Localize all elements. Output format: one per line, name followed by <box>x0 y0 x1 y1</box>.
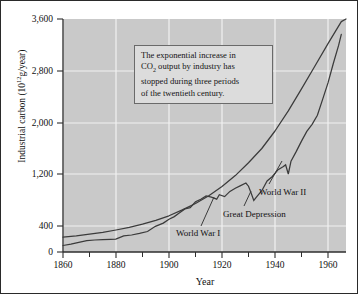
xtick-label-1940: 1940 <box>255 260 295 270</box>
callout-line-1: The exponential increase in <box>141 50 267 61</box>
x-axis-ticks <box>63 252 328 258</box>
y-axis-title-exponent: 12 <box>15 76 22 83</box>
callout-co2-prefix: CO <box>141 61 153 71</box>
annotation-label-world-war-i: World War I <box>176 228 220 238</box>
annotation-label-world-war-ii: World War II <box>259 187 306 197</box>
ytick-label-2000: 2,000 <box>7 118 53 128</box>
callout-line-4: of the twentieth century. <box>141 88 267 99</box>
callout-line-2: CO2 output by industry has <box>141 61 267 76</box>
figure-chart: 3,600 2,800 2,000 1,200 400 0 1860 1880 … <box>0 0 358 294</box>
annotation-label-great-depression: Great Depression <box>223 209 286 219</box>
xtick-label-1900: 1900 <box>149 260 189 270</box>
ytick-label-2800: 2,800 <box>7 66 53 76</box>
callout-line-2-rest: output by industry has <box>156 61 235 71</box>
y-axis-title-prefix: Industrial carbon (10 <box>17 83 27 163</box>
ytick-label-0: 0 <box>7 247 53 257</box>
x-axis-minor-ticks <box>90 252 302 257</box>
xtick-label-1920: 1920 <box>202 260 242 270</box>
callout-line-3: stopped during three periods <box>141 76 267 87</box>
x-axis-title: Year <box>130 276 280 287</box>
y-axis-title: Industrial carbon (1012g/year) <box>15 31 27 181</box>
callout-note-box: The exponential increase in CO2 output b… <box>134 45 273 104</box>
xtick-label-1960: 1960 <box>308 260 348 270</box>
xtick-label-1880: 1880 <box>96 260 136 270</box>
xtick-label-1860: 1860 <box>43 260 83 270</box>
ytick-label-400: 400 <box>7 221 53 231</box>
ytick-label-3600: 3,600 <box>7 14 53 24</box>
ytick-label-1200: 1,200 <box>7 169 53 179</box>
y-axis-title-suffix: g/year) <box>17 50 27 77</box>
